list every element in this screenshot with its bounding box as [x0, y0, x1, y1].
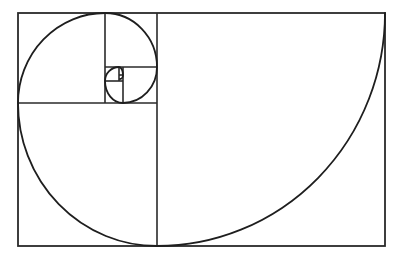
outer-rectangle: [18, 13, 385, 246]
golden-spiral-curve: [18, 13, 385, 246]
golden-spiral-diagram: [0, 0, 398, 260]
